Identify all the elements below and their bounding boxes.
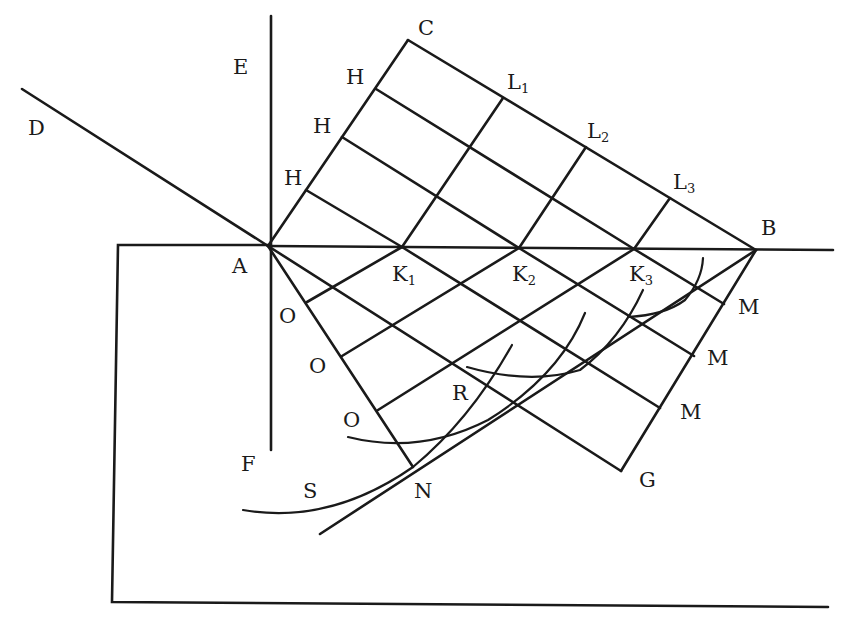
label-M2: M <box>707 348 729 369</box>
line-K2-L2 <box>519 147 586 248</box>
label-N: N <box>414 481 432 502</box>
label-L1: L1 <box>507 72 529 95</box>
medium-boundary <box>112 245 828 607</box>
line-K1-O1 <box>307 247 402 302</box>
label-R: R <box>452 383 468 404</box>
label-L3: L3 <box>673 172 695 195</box>
label-O2: O <box>309 356 326 377</box>
label-K3: K3 <box>629 264 653 287</box>
label-L2: L2 <box>587 121 609 144</box>
line-H2-K2 <box>342 137 519 248</box>
line-K2-M2 <box>519 248 694 356</box>
line-K1-L1 <box>402 98 503 247</box>
line-CB <box>408 40 756 250</box>
incident-ray-DA <box>22 89 268 246</box>
label-O3: O <box>343 410 360 431</box>
label-H3: H <box>284 168 302 189</box>
line-H1-B <box>376 89 634 249</box>
line-K3-L3 <box>634 198 670 249</box>
label-G: G <box>639 470 656 491</box>
refraction-construction-figure <box>0 0 851 623</box>
label-F: F <box>241 454 256 475</box>
label-B: B <box>761 218 776 239</box>
label-A: A <box>232 256 247 277</box>
label-K2: K2 <box>512 264 536 287</box>
label-O1: O <box>279 306 296 327</box>
line-K3-O3 <box>378 249 634 410</box>
wavelet-arc-S <box>243 345 512 513</box>
label-H1: H <box>346 67 364 88</box>
label-C: C <box>418 18 434 39</box>
label-M3: M <box>680 402 702 423</box>
label-H2: H <box>313 116 331 137</box>
wavefront-AC <box>268 40 408 246</box>
label-S: S <box>303 481 317 502</box>
line-H3-K1 <box>306 190 402 247</box>
label-K1: K1 <box>392 264 416 287</box>
label-E: E <box>233 57 248 78</box>
label-D: D <box>28 118 45 139</box>
label-M1: M <box>738 297 760 318</box>
diagram-canvas: C E H H H D L1 L2 L3 B A K1 K2 K3 O O O … <box>0 0 851 623</box>
